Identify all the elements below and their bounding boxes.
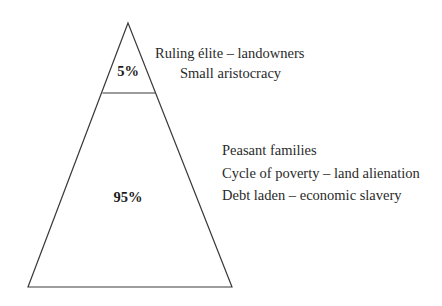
- pyramid-graphic: 5% 95% Ruling élite – landowners Small a…: [0, 0, 442, 306]
- bottom-tier-label-3: Debt laden – economic slavery: [222, 187, 402, 203]
- bottom-tier-label-2: Cycle of poverty – land alienation: [222, 165, 420, 181]
- bottom-tier-label-1: Peasant families: [222, 142, 317, 158]
- top-tier-label-1: Ruling élite – landowners: [155, 45, 305, 61]
- bottom-tier-percent: 95%: [114, 189, 143, 205]
- top-tier-label-2: Small aristocracy: [180, 65, 282, 81]
- pyramid-diagram: 5% 95% Ruling élite – landowners Small a…: [0, 0, 442, 306]
- top-tier-percent: 5%: [117, 63, 139, 79]
